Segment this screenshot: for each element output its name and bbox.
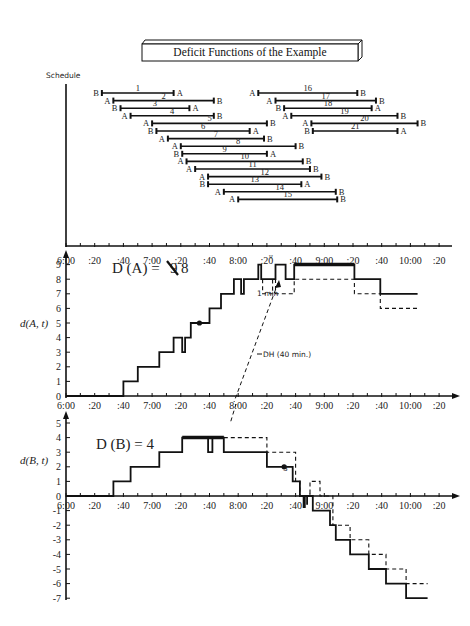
x-tick-label: :40 (375, 255, 388, 266)
x-tick-label: :40 (117, 500, 130, 511)
trip-destination: A (400, 126, 407, 136)
x-tick-label: :20 (347, 500, 360, 511)
trip-id: 9 (222, 144, 226, 154)
x-tick-label: :40 (117, 400, 130, 411)
x-tick-label: :40 (203, 255, 216, 266)
y-tick-label: -2 (53, 520, 61, 531)
x-tick-label: :40 (289, 400, 302, 411)
y-tick-label: -3 (53, 534, 61, 545)
panel-a-y-label: d(A, t) (20, 317, 48, 330)
trip-origin: A (282, 111, 289, 121)
schedule-trips: BA1AB2BA3AB4AB5BA6AB7AB8BA9AB10AB11AB12B… (93, 83, 426, 204)
x-tick-label: 6:00 (57, 500, 75, 511)
trip-destination: A (304, 179, 311, 189)
trip-id: 1 (136, 83, 140, 93)
panel-b-series (66, 438, 428, 599)
trip-origin: A (121, 111, 128, 121)
x-tick-label: :40 (375, 500, 388, 511)
x-tick-label: :20 (88, 255, 101, 266)
panel-a-y-ticks: 0123456789 (56, 259, 70, 401)
trip-origin: B (275, 103, 281, 113)
trip-id: 21 (351, 121, 360, 131)
trip-id: 12 (260, 167, 269, 177)
y-tick-label: 1 (56, 476, 61, 487)
title-box: Deficit Functions of the Example (142, 40, 362, 61)
trip-destination: B (340, 194, 346, 204)
marker-dot (197, 320, 202, 325)
dh-label: DH (40 min.) (263, 350, 311, 359)
y-tick-label: 1 (56, 376, 61, 387)
trip-id: 7 (214, 129, 218, 139)
y-tick-label: 5 (56, 418, 61, 429)
panel-a-x-arrow-icon (452, 393, 460, 399)
trip-destination: B (267, 134, 273, 144)
trip-id: 20 (360, 113, 369, 123)
y-tick-label: 3 (56, 447, 61, 458)
x-tick-label: :20 (261, 400, 274, 411)
y-tick-label: 4 (56, 332, 61, 343)
deficit-functions-figure: Deficit Functions of the Example Schedul… (0, 0, 470, 626)
trip-origin: A (215, 187, 222, 197)
deficit-b-solid-line (66, 438, 428, 599)
panel-b-dB-label: D (B) = 4 (96, 436, 155, 453)
x-tick-label: 8:00 (229, 500, 247, 511)
trip-destination: B (360, 88, 366, 98)
panel-a-deficit: 0123456789 6:00:20:407:00:20:408:00:20:4… (20, 250, 460, 424)
x-tick-label: 7:00 (143, 400, 161, 411)
y-tick-label: 4 (56, 432, 61, 443)
trip-id: 13 (250, 174, 259, 184)
trip-destination: A (192, 103, 199, 113)
trip-origin: B (199, 179, 205, 189)
trip-destination: A (253, 126, 260, 136)
x-tick-label: :20 (261, 500, 274, 511)
panel-b-y-label: d(B, t) (20, 454, 48, 467)
trip-destination: B (324, 172, 330, 182)
x-tick-label: 9:00 (315, 400, 333, 411)
trip-origin: B (148, 126, 154, 136)
y-tick-label: 9 (56, 259, 61, 270)
trip-id: 15 (283, 189, 292, 199)
y-tick-label: 6 (56, 303, 61, 314)
trip-destination: B (400, 111, 406, 121)
trip-id: 2 (161, 91, 165, 101)
x-tick-label: 9:00 (315, 500, 333, 511)
v-marker-icon: ▿ (269, 252, 273, 261)
trip-destination: A (177, 88, 184, 98)
trip-origin: A (266, 96, 273, 106)
panel-a-dA-value: 8 (181, 260, 189, 276)
x-tick-label: 10:00 (399, 400, 422, 411)
y-tick-label: 5 (56, 318, 61, 329)
x-tick-label: 10:00 (399, 255, 422, 266)
trip-destination: A (375, 103, 382, 113)
trip-destination: A (270, 149, 277, 159)
trip-id: 18 (324, 98, 333, 108)
trip-origin: A (104, 96, 111, 106)
x-tick-label: :20 (433, 255, 446, 266)
x-tick-label: :40 (375, 400, 388, 411)
y-tick-label: -4 (53, 549, 61, 560)
x-tick-label: :20 (88, 500, 101, 511)
panel-a-dA-prefix: D (A) = (112, 260, 160, 277)
b-dip-bar (303, 496, 306, 508)
schedule-panel: Schedule 6:00:20:407:00:20:408:00:20:409… (46, 71, 452, 266)
deficit-a-solid-line (66, 265, 418, 396)
y-tick-label: 2 (56, 361, 61, 372)
panel-b-deficit: 543210-1-2-3-4-5-6-7 6:00:20:407:00:20:4… (20, 411, 460, 604)
chart-title: Deficit Functions of the Example (173, 46, 326, 59)
x-tick-label: 7:00 (143, 500, 161, 511)
x-tick-label: :20 (433, 500, 446, 511)
x-tick-label: :20 (174, 400, 187, 411)
x-tick-label: :40 (289, 500, 302, 511)
trip-id: 16 (304, 83, 313, 93)
panel-b-y-arrow-icon (63, 411, 69, 419)
trip-id: 5 (207, 113, 211, 123)
x-tick-label: :40 (203, 500, 216, 511)
trip-origin: A (249, 88, 256, 98)
trip-id: 19 (340, 106, 349, 116)
trip-destination: B (217, 96, 223, 106)
trip-origin: B (112, 103, 118, 113)
y-tick-label: 7 (56, 288, 61, 299)
trip-origin: A (229, 194, 236, 204)
y-tick-label: 3 (56, 347, 61, 358)
trip-destination: B (306, 156, 312, 166)
